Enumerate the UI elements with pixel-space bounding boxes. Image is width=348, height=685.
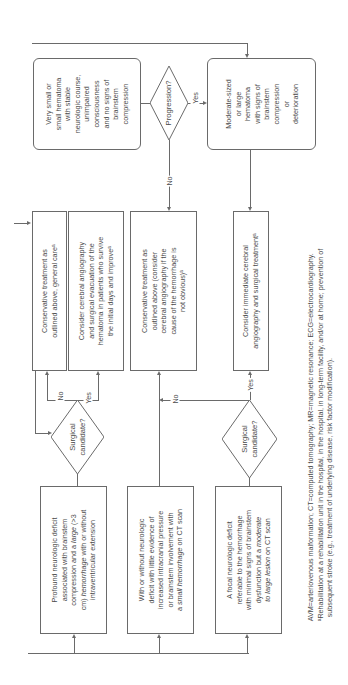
bottom-feed-line bbox=[28, 653, 249, 654]
consider-angiography-evacuation-box: Consider cerebral angiography and surgic… bbox=[68, 211, 124, 371]
progression-yes-label: Yes bbox=[191, 91, 200, 105]
with-or-without-deficit-box: With or without neurologic deficit with … bbox=[127, 486, 194, 634]
arrow-up-profound bbox=[72, 634, 76, 638]
left-surgical-candidate-label: Surgical candidate? bbox=[68, 418, 87, 455]
with-or-without-deficit-text: With or without neurologic deficit with … bbox=[137, 509, 185, 611]
right-yes-label: Yes bbox=[246, 378, 255, 392]
footnote-rehabilitation: ᵃRehabilitation at a rehabilitation unit… bbox=[315, 249, 325, 622]
right-no-label: No bbox=[171, 393, 180, 404]
arrow-right-yes bbox=[248, 371, 252, 375]
progression-label: Progression? bbox=[164, 81, 174, 126]
left-diamond-down-line bbox=[77, 474, 78, 486]
bottom-feed-up-3 bbox=[247, 638, 248, 653]
bottom-feed-up-1 bbox=[74, 638, 75, 653]
arrow-left-yes bbox=[96, 371, 100, 375]
progression-no-line bbox=[169, 140, 170, 208]
arrow-left-no bbox=[45, 371, 49, 375]
profound-deficit-text: Profound neurologic deficit associated w… bbox=[50, 510, 98, 611]
arrow-right-no bbox=[159, 398, 163, 402]
focal-deficit-box: A focal neurologic deficit referable to … bbox=[215, 486, 282, 634]
left-yes-up-line bbox=[98, 374, 99, 401]
left-surgical-candidate-decision: Surgical candidate? bbox=[51, 400, 104, 474]
focal-deficit-text: A focal neurologic deficit referable to … bbox=[225, 510, 273, 610]
arrow-up-focal bbox=[245, 634, 249, 638]
conservative-general-care-text: Conservative treatment as outlined above… bbox=[40, 244, 59, 337]
arrow-up-with-or-without bbox=[157, 634, 161, 638]
very-small-hematoma-text: Very small or small hematoma with stable… bbox=[44, 75, 130, 134]
left-feed-into-conservative bbox=[14, 223, 28, 224]
conservative-consider-angiography-box: Conservative treatment as outlined above… bbox=[130, 211, 197, 371]
profound-deficit-box: Profound neurologic deficit associated w… bbox=[40, 486, 107, 634]
footnote: AVM=arteriovenous malformation; CT=compu… bbox=[306, 249, 335, 622]
footnote-abbreviations: AVM=arteriovenous malformation; CT=compu… bbox=[306, 249, 316, 622]
footnote-prevention: subsequent stroke (e.g., treatment of un… bbox=[325, 249, 335, 622]
arrow-left-feed bbox=[27, 221, 31, 225]
bottom-feed-up-2 bbox=[159, 638, 160, 653]
moderate-down-line bbox=[250, 150, 251, 208]
consider-immediate-treatment-box: Consider immediate cerebral angiography … bbox=[233, 211, 269, 371]
top-feed-line bbox=[32, 43, 248, 44]
right-diamond-down-line bbox=[249, 478, 250, 486]
left-bypass-into-diamond bbox=[35, 433, 49, 434]
consider-angiography-evacuation-text: Consider cerebral angiography and surgic… bbox=[77, 237, 115, 346]
left-bypass-line bbox=[35, 371, 36, 433]
right-surgical-candidate-label: Surgical candidate? bbox=[240, 420, 259, 457]
progression-no-label: No bbox=[165, 175, 174, 186]
center-up-line bbox=[159, 374, 160, 486]
moderate-hematoma-text: Moderate-sized or large hematoma with si… bbox=[223, 79, 300, 129]
left-no-up-line bbox=[47, 374, 48, 401]
right-surgical-candidate-decision: Surgical candidate? bbox=[222, 400, 277, 478]
very-small-hematoma-box: Very small or small hematoma with stable… bbox=[33, 58, 141, 150]
progression-decision: Progression? bbox=[150, 66, 188, 140]
consider-immediate-treatment-text: Consider immediate cerebral angiography … bbox=[241, 233, 260, 348]
arrow-center-up bbox=[157, 371, 161, 375]
conservative-consider-angiography-text: Conservative treatment as outlined above… bbox=[140, 247, 188, 334]
moderate-hematoma-box: Moderate-sized or large hematoma with si… bbox=[207, 58, 316, 150]
conservative-general-care-box: Conservative treatment as outlined above… bbox=[32, 211, 67, 371]
